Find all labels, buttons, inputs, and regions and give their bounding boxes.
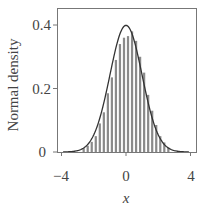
ytick-label-0: 0: [39, 144, 47, 160]
histogram-bars: [83, 31, 170, 152]
histogram-bar: [115, 60, 117, 152]
histogram-bar: [99, 123, 101, 152]
histogram-bar: [131, 31, 133, 152]
histogram-bar: [103, 112, 105, 152]
histogram-bar: [135, 41, 137, 152]
histogram-bar: [107, 93, 109, 152]
histogram-bar: [95, 136, 97, 152]
histogram-bar: [91, 142, 93, 152]
normal-density-chart: 0 0.2 0.4 −4 0 4 x Normal density: [0, 0, 207, 211]
ytick-label-0.4: 0.4: [32, 17, 51, 33]
histogram-bar: [119, 44, 121, 152]
x-axis-label: x: [122, 190, 130, 206]
ytick-label-0.2: 0.2: [32, 81, 51, 97]
histogram-bar: [111, 77, 113, 152]
xtick-label-4: 4: [187, 168, 195, 184]
normal-density-curve: [63, 25, 189, 152]
xtick-label-neg4: −4: [53, 168, 69, 184]
histogram-bar: [87, 146, 89, 152]
histogram-bar: [127, 36, 129, 152]
histogram-bar: [123, 38, 125, 152]
xtick-label-0: 0: [122, 168, 130, 184]
y-axis-label: Normal density: [5, 38, 21, 131]
axis-ticks: [53, 25, 191, 156]
